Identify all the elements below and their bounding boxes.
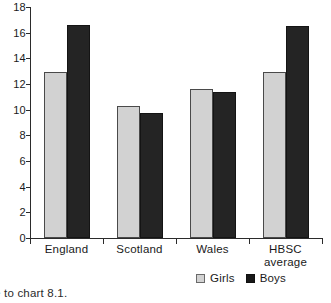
bar-group-scotland (103, 7, 176, 238)
bar-wales-boys (213, 92, 236, 238)
legend-label-girls: Girls (210, 272, 235, 284)
y-tick-label: 12 (13, 79, 26, 90)
plot-area: 18 16 14 12 10 8 6 4 (30, 7, 323, 239)
legend-label-boys: Boys (260, 272, 286, 284)
bar-scotland-girls (117, 106, 140, 238)
chart-legend: Girls Boys (196, 272, 286, 284)
bar-england-boys (67, 25, 90, 238)
legend-entry-girls: Girls (196, 272, 235, 284)
bar-wales-girls (190, 89, 213, 238)
y-tick-label: 2 (20, 207, 26, 218)
y-tick-label: 0 (20, 233, 26, 244)
x-label-scotland: Scotland (103, 243, 176, 256)
bar-scotland-boys (140, 113, 163, 238)
y-tick-label: 10 (13, 104, 26, 115)
bar-england-girls (44, 72, 67, 238)
x-label-england: England (30, 243, 103, 256)
y-tick-label: 8 (20, 130, 26, 141)
x-axis-separator (322, 239, 323, 244)
x-label-line1: Scotland (103, 243, 176, 256)
x-label-line1: HBSC (249, 243, 322, 256)
x-label-hbsc-average: HBSC average (249, 243, 322, 269)
bar-group-wales (176, 7, 249, 238)
x-label-line2: average (249, 256, 322, 269)
bar-chart-figure: 18 16 14 12 10 8 6 4 (0, 0, 331, 303)
figure-caption: e to chart 8.1. (0, 287, 67, 300)
bar-hbsc-average-girls (263, 72, 286, 238)
boys-swatch-icon (246, 274, 255, 283)
y-tick-label: 4 (20, 181, 26, 192)
legend-entry-boys: Boys (246, 272, 286, 284)
x-label-line1: Wales (176, 243, 249, 256)
x-label-line1: England (30, 243, 103, 256)
y-tick-label: 14 (13, 53, 26, 64)
girls-swatch-icon (196, 274, 205, 283)
bar-hbsc-average-boys (286, 26, 309, 238)
x-label-wales: Wales (176, 243, 249, 256)
y-tick-label: 6 (20, 156, 26, 167)
y-tick-label: 16 (13, 27, 26, 38)
bar-group-england (30, 7, 103, 238)
y-tick-label: 18 (13, 2, 26, 13)
bar-group-hbsc-average (249, 7, 322, 238)
